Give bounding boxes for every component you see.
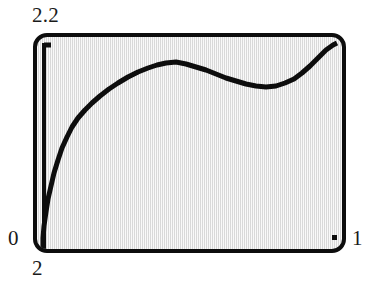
calculator-graph-figure: 2.2 0 2 1 [0,0,372,293]
trace-cursor-dot[interactable] [332,235,337,240]
calculator-screen [33,33,346,253]
plot-canvas [37,37,342,249]
function-curve [43,43,337,249]
y-max-label: 2.2 [32,5,59,26]
x-max-label: 1 [352,228,363,249]
y-min-label: 0 [8,228,19,249]
x-min-label: 2 [32,258,43,279]
